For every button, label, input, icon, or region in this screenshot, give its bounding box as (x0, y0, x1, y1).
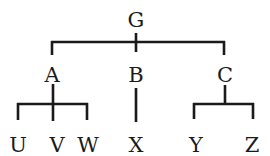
node-a: A (43, 63, 60, 87)
connector-a-children (17, 84, 88, 121)
connector-c-children (193, 85, 254, 119)
node-x: X (129, 133, 144, 156)
node-z: Z (245, 133, 260, 156)
node-g: G (128, 8, 145, 32)
connector-g-children (51, 33, 225, 55)
node-c: C (217, 63, 233, 87)
node-w: W (77, 133, 99, 156)
node-y: Y (188, 133, 204, 156)
tree-diagram: G A B C U V W X Y Z (0, 0, 270, 156)
node-b: B (128, 63, 143, 87)
node-u: U (9, 133, 27, 156)
node-v: V (48, 133, 65, 156)
